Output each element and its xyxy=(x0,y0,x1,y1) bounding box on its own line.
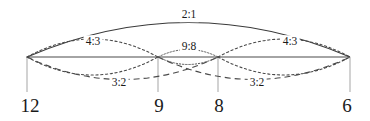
arc-lower-right-dotted xyxy=(218,57,350,75)
ratio-label-tone: 9:8 xyxy=(180,40,199,54)
ratio-label-fourth-right: 4:3 xyxy=(281,35,300,49)
node-label-12: 12 xyxy=(21,96,40,115)
node-label-6: 6 xyxy=(342,96,352,115)
ratio-label-fourth-left: 4:3 xyxy=(84,35,103,49)
harmonic-ratio-diagram: 2:1 4:3 4:3 9:8 3:2 3:2 12 9 8 6 xyxy=(0,0,370,121)
ratio-label-fifth-left: 3:2 xyxy=(110,76,129,90)
ratio-label-octave: 2:1 xyxy=(180,8,199,22)
ratio-label-fifth-right: 3:2 xyxy=(248,76,267,90)
node-label-8: 8 xyxy=(214,96,224,115)
arc-tone-9-8-lower xyxy=(158,57,218,65)
arc-lower-left-dotted xyxy=(27,57,158,75)
node-label-9: 9 xyxy=(154,96,164,115)
